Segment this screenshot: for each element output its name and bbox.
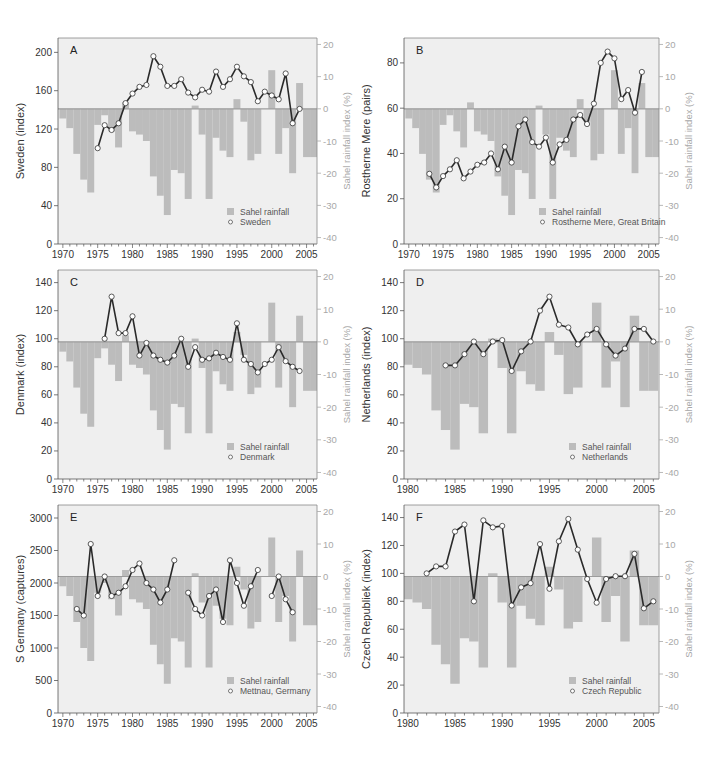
y-axis-label: Netherlands (index): [360, 327, 372, 423]
data-point-marker: [585, 576, 590, 581]
x-tick-label: 1970: [52, 484, 75, 495]
sahel-bar: [597, 109, 604, 154]
sahel-bar: [178, 577, 185, 642]
y-right-axis-label: Sahel rainfall index (%): [683, 92, 694, 190]
data-point-marker: [639, 69, 644, 74]
data-point-marker: [137, 561, 142, 566]
y-tick-label: 60: [387, 103, 399, 114]
data-point-marker: [123, 101, 128, 106]
sahel-bar: [233, 99, 240, 109]
data-point-marker: [255, 567, 260, 572]
data-point-marker: [193, 95, 198, 100]
sahel-bar: [573, 577, 582, 623]
y-tick-label: 40: [41, 200, 53, 211]
sahel-bar: [507, 577, 516, 668]
data-point-marker: [543, 135, 548, 140]
data-point-marker: [269, 357, 274, 362]
y-right-tick-label: -30: [323, 434, 337, 445]
data-point-marker: [186, 90, 191, 95]
sahel-bar: [178, 109, 185, 173]
data-point-marker: [641, 606, 646, 611]
sahel-bar: [498, 577, 507, 603]
data-point-marker: [500, 523, 505, 528]
chart-canvas: 04080120160200-40-30-20-1001020197019751…: [0, 0, 722, 761]
data-point-marker: [452, 363, 457, 368]
y-tick-label: 80: [387, 361, 399, 372]
data-point-marker: [151, 587, 156, 592]
data-point-marker: [227, 357, 232, 362]
x-tick-label: 1985: [156, 249, 179, 260]
sahel-bar: [404, 342, 413, 365]
sahel-bar: [122, 335, 129, 342]
data-point-marker: [509, 160, 514, 165]
data-point-marker: [604, 342, 609, 347]
data-point-marker: [276, 574, 281, 579]
x-tick-label: 2000: [261, 484, 284, 495]
sahel-bar: [310, 109, 317, 157]
sahel-bar: [590, 109, 597, 161]
data-point-marker: [632, 110, 637, 115]
sahel-bar: [268, 538, 275, 577]
x-tick-label: 2005: [638, 249, 661, 260]
sahel-bar: [639, 342, 648, 391]
data-point-marker: [297, 106, 302, 111]
y-axis-label: Czech Republiek (index): [360, 549, 372, 669]
data-point-marker: [290, 121, 295, 126]
sahel-bar: [296, 83, 303, 109]
data-point-marker: [556, 322, 561, 327]
data-point-marker: [516, 124, 521, 129]
data-point-marker: [172, 353, 177, 358]
x-tick-label: 2000: [603, 249, 626, 260]
data-point-marker: [468, 169, 473, 174]
x-tick-label: 1975: [87, 484, 110, 495]
data-point-marker: [651, 599, 656, 604]
sahel-bar: [440, 109, 447, 125]
y-right-tick-label: 20: [665, 39, 676, 50]
y-tick-label: 0: [46, 474, 52, 485]
sahel-bar: [310, 342, 317, 391]
data-point-marker: [144, 580, 149, 585]
data-point-marker: [95, 593, 100, 598]
data-point-marker: [102, 123, 107, 128]
sahel-bar: [275, 109, 282, 154]
sahel-bar: [601, 577, 610, 623]
panel-letter: F: [416, 511, 423, 523]
data-point-marker: [547, 586, 552, 591]
data-point-marker: [488, 151, 493, 156]
x-tick-label: 1970: [398, 249, 421, 260]
data-point-marker: [536, 144, 541, 149]
sahel-bar: [620, 577, 629, 642]
y-tick-label: 0: [392, 708, 398, 719]
data-point-marker: [591, 101, 596, 106]
sahel-bar: [206, 577, 213, 668]
data-point-marker: [598, 60, 603, 65]
panel-d: 020406080100120140-40-30-20-100102019801…: [360, 270, 694, 495]
data-point-marker: [490, 339, 495, 344]
data-point-marker: [641, 326, 646, 331]
sahel-bar: [450, 342, 459, 450]
sahel-bar: [240, 577, 247, 590]
data-point-marker: [585, 332, 590, 337]
y-tick-label: 40: [41, 417, 53, 428]
legend-bar-label: Sahel rainfall: [240, 676, 289, 686]
data-point-marker: [88, 541, 93, 546]
y-tick-label: 80: [387, 57, 399, 68]
y-right-tick-label: -20: [323, 636, 337, 647]
data-point-marker: [74, 606, 79, 611]
sahel-bar: [296, 316, 303, 342]
data-point-marker: [605, 49, 610, 54]
sahel-bar: [254, 577, 261, 623]
sahel-bar: [80, 109, 87, 180]
y-right-tick-label: 10: [323, 304, 334, 315]
data-point-marker: [612, 56, 617, 61]
y-right-tick-label: -10: [323, 136, 337, 147]
data-point-marker: [427, 171, 432, 176]
x-tick-label: 1995: [569, 249, 592, 260]
sahel-bar: [632, 109, 639, 173]
y-right-tick-label: -40: [323, 701, 337, 712]
data-point-marker: [158, 64, 163, 69]
sahel-bar: [94, 109, 101, 125]
data-point-marker: [137, 353, 142, 358]
legend-line-label: Mettnau, Germany: [240, 686, 311, 696]
y-right-tick-label: -20: [665, 636, 679, 647]
